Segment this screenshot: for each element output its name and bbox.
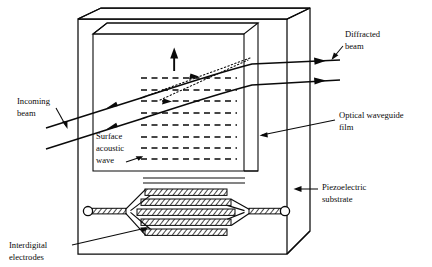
diagram-canvas: Incoming beam Diffracted beam Optical wa…	[0, 0, 432, 267]
electrode-finger	[145, 229, 227, 235]
saw-direction-up-arrow	[170, 48, 178, 72]
substrate-bottom-chamfer	[287, 231, 310, 254]
piezoelectric-substrate-label-line1: Piezoelectric	[322, 182, 367, 192]
incoming-beam-label-line1: Incoming	[17, 96, 51, 106]
optical-waveguide-film-leader-arrowhead	[260, 132, 268, 137]
electrode-finger	[137, 209, 235, 215]
electrode-bond-pad-right	[280, 207, 289, 216]
interdigital-electrodes	[83, 189, 289, 235]
incoming-beam-leader-arrowhead	[62, 121, 67, 129]
label-incoming-beam: Incoming beam	[17, 96, 51, 118]
electrode-finger	[141, 199, 231, 205]
interdigital-electrodes-leader	[72, 228, 146, 245]
diffracted-beam-leader-arrowhead	[332, 53, 339, 60]
piezoelectric-substrate-leader-arrowhead	[294, 186, 302, 192]
up-arrow-head	[170, 48, 178, 59]
diffracted-beam-label-line1: Diffracted	[345, 29, 381, 39]
surface-acoustic-wave-label-line1: Surface	[96, 131, 122, 141]
piezoelectric-substrate-label-line2: substrate	[322, 194, 353, 204]
electrode-bond-pad-left	[83, 207, 92, 216]
substrate-top-face	[78, 8, 310, 19]
acousto-optic-device-diagram: Incoming beam Diffracted beam Optical wa…	[0, 0, 432, 267]
label-surface-acoustic-wave: Surface acoustic wave	[96, 131, 124, 165]
optical-waveguide-film-label-line1: Optical waveguide	[339, 110, 404, 120]
incoming-beam-label-line2: beam	[17, 108, 36, 118]
electrode-finger	[141, 219, 231, 225]
beam-arrowheads	[106, 58, 326, 130]
diffracted-beam-label-line2: beam	[345, 41, 364, 51]
internal-diffraction-marker	[162, 99, 172, 105]
diffracted-beam-arrowhead	[314, 77, 326, 84]
label-interdigital-electrodes: Interdigital electrodes	[9, 240, 48, 262]
electrode-finger	[145, 189, 227, 195]
interdigital-electrodes-label-line1: Interdigital	[9, 240, 48, 250]
bragg-construction-dotted-lines	[141, 58, 250, 100]
light-beams	[46, 60, 340, 149]
substrate-top-face-edge	[78, 8, 310, 19]
optical-waveguide-film-leader	[262, 120, 335, 135]
surface-acoustic-wave-label-line3: wave	[96, 155, 114, 165]
diffracted-beam-arrowhead	[314, 58, 326, 65]
upper-beam-path	[46, 60, 340, 128]
surface-acoustic-wave-label-line2: acoustic	[96, 143, 124, 153]
transducer-top-busbars	[143, 178, 245, 183]
electrode-fingers	[137, 189, 235, 235]
interdigital-electrodes-label-line2: electrodes	[9, 252, 44, 262]
electrode-right-lead	[249, 208, 281, 214]
label-piezoelectric-substrate: Piezoelectric substrate	[322, 182, 367, 204]
label-diffracted-beam: Diffracted beam	[345, 29, 381, 51]
label-optical-waveguide-film: Optical waveguide film	[339, 110, 404, 132]
surface-acoustic-wave-wavefronts	[141, 78, 237, 159]
waveguide-top-bevel	[93, 23, 258, 34]
electrode-left-lead	[92, 208, 126, 214]
optical-waveguide-film-label-line2: film	[339, 122, 354, 132]
